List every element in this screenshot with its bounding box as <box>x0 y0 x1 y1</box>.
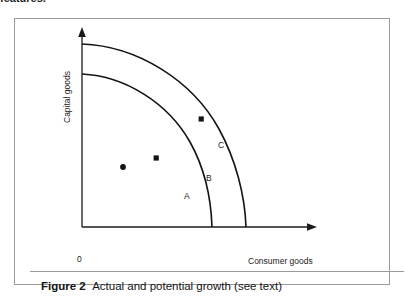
data-point-c <box>199 116 204 121</box>
truncated-top-text: features. <box>0 0 120 7</box>
truncated-top-text-label: features. <box>0 0 46 4</box>
caption-divider <box>30 271 404 272</box>
x-axis-label: Consumer goods <box>248 257 313 266</box>
inner-ppf-curve <box>82 74 212 227</box>
figure-caption-text: Actual and potential growth (see text) <box>92 280 282 292</box>
y-axis <box>78 27 86 227</box>
figure-caption: Figure 2 Actual and potential growth (se… <box>41 281 282 293</box>
origin-label: 0 <box>77 255 82 264</box>
ppf-diagram <box>15 19 391 253</box>
data-point-b <box>154 155 159 160</box>
plot-area: Capital goods Consumer goods 0 A B C <box>15 19 391 253</box>
data-point-a <box>120 164 126 170</box>
data-point-a-label: A <box>184 192 190 201</box>
outer-ppf-curve <box>82 44 246 227</box>
figure-caption-label: Figure 2 <box>41 280 86 292</box>
x-axis <box>82 223 317 231</box>
data-point-b-label: B <box>206 174 212 183</box>
data-point-c-label: C <box>218 141 224 150</box>
figure-frame: Capital goods Consumer goods 0 A B C Fig… <box>14 18 390 285</box>
y-axis-label: Capital goods <box>63 71 72 123</box>
